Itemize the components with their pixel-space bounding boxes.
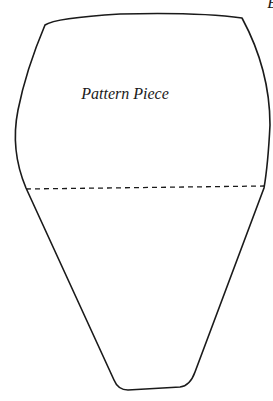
pattern-outline xyxy=(15,14,270,391)
corner-letter: B xyxy=(267,0,273,12)
pattern-piece-diagram xyxy=(0,0,273,401)
pattern-piece-label: Pattern Piece xyxy=(60,85,190,103)
fold-line xyxy=(26,186,264,189)
